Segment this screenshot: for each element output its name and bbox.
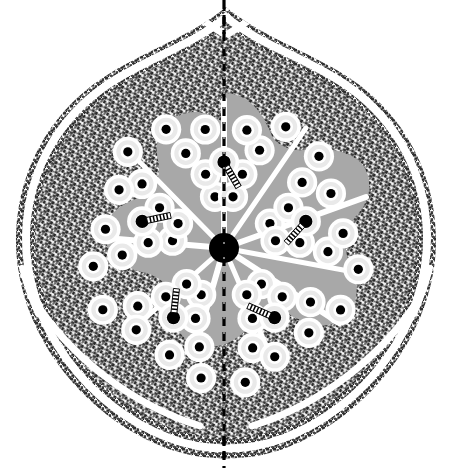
cell-nucleus <box>255 146 264 155</box>
vascular-cell <box>287 167 317 197</box>
cell-nucleus <box>354 265 363 274</box>
cell-nucleus <box>89 262 98 271</box>
cell-nucleus <box>136 215 149 228</box>
vascular-cell <box>271 112 301 142</box>
vascular-cell <box>113 137 143 167</box>
vascular-cell <box>104 175 134 205</box>
vascular-cell <box>190 114 220 144</box>
vascular-cell <box>171 138 201 168</box>
vascular-cell <box>107 240 137 270</box>
cell-nucleus <box>144 238 153 247</box>
figure-canvas <box>0 0 451 468</box>
cell-nucleus <box>306 297 315 306</box>
cell-nucleus <box>137 179 146 188</box>
vascular-cell <box>186 363 216 393</box>
cell-nucleus <box>238 170 247 179</box>
cell-nucleus <box>132 325 141 334</box>
cell-nucleus <box>271 236 280 245</box>
vascular-cell <box>304 141 334 171</box>
cell-nucleus <box>114 185 123 194</box>
vascular-cell <box>184 332 214 362</box>
cell-nucleus <box>191 314 200 323</box>
vascular-cell <box>230 367 260 397</box>
cell-nucleus <box>339 229 348 238</box>
cell-nucleus <box>284 203 293 212</box>
vascular-cell <box>295 287 325 317</box>
cell-nucleus <box>278 292 287 301</box>
vascular-cell <box>151 114 181 144</box>
cell-nucleus <box>201 125 210 134</box>
cell-nucleus <box>98 305 107 314</box>
cell-nucleus <box>314 152 323 161</box>
cell-nucleus <box>281 122 290 131</box>
vascular-cell <box>88 295 118 325</box>
vascular-cell <box>260 342 290 372</box>
vascular-cell <box>232 115 262 145</box>
cell-nucleus <box>228 192 237 201</box>
cell-nucleus <box>248 314 257 323</box>
cell-nucleus <box>162 125 171 134</box>
ladder-rung <box>172 305 178 306</box>
vascular-cell <box>294 318 324 348</box>
vascular-cell <box>343 254 373 284</box>
vascular-cell <box>325 295 355 325</box>
cell-nucleus <box>336 305 345 314</box>
cell-nucleus <box>195 342 204 351</box>
ladder-rung <box>173 295 179 296</box>
vascular-cell <box>121 315 151 345</box>
cell-nucleus <box>248 343 257 352</box>
cell-nucleus <box>196 373 205 382</box>
cell-nucleus <box>242 290 251 299</box>
cell-nucleus <box>181 149 190 158</box>
ladder-rung <box>171 309 177 310</box>
cell-nucleus <box>304 328 313 337</box>
cell-nucleus <box>241 378 250 387</box>
vascular-cell <box>316 178 346 208</box>
cell-nucleus <box>161 292 170 301</box>
cell-nucleus <box>323 247 332 256</box>
cell-nucleus <box>295 238 304 247</box>
vascular-cell <box>78 251 108 281</box>
cross-section-diagram <box>0 0 451 468</box>
ladder-rung <box>172 299 178 300</box>
cell-nucleus <box>298 178 307 187</box>
cell-nucleus <box>242 126 251 135</box>
cell-nucleus <box>133 302 142 311</box>
cell-nucleus <box>173 219 182 228</box>
cell-nucleus <box>101 225 110 234</box>
cell-nucleus <box>201 170 210 179</box>
cell-nucleus <box>165 350 174 359</box>
vascular-cell <box>154 340 184 370</box>
ladder-rung <box>173 292 179 293</box>
cell-nucleus <box>155 203 164 212</box>
cell-nucleus <box>326 189 335 198</box>
cell-nucleus <box>118 251 127 260</box>
cell-nucleus <box>123 147 132 156</box>
cell-nucleus <box>270 352 279 361</box>
cell-nucleus <box>182 280 191 289</box>
ladder-rung <box>172 302 178 303</box>
vascular-cell <box>328 218 358 248</box>
vascular-cell <box>90 214 120 244</box>
